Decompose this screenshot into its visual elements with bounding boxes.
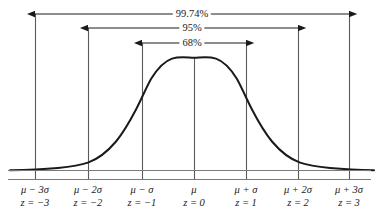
interval-label-9974: 99.74% <box>173 8 211 19</box>
tick-label-minus-3sigma: μ − 3σ z = −3 <box>21 184 50 209</box>
tick-label-z-text: z = 3 <box>335 197 363 209</box>
tick-label-sigma-text: μ <box>183 184 205 196</box>
bell-curve <box>10 57 374 170</box>
interval-label-95: 95% <box>179 22 204 33</box>
tick-label-sigma-text: μ + σ <box>235 184 258 196</box>
tick-label-plus-2sigma: μ + 2σ z = 2 <box>284 184 312 209</box>
tick-label-z-text: z = 0 <box>183 197 205 209</box>
tick-label-z-text: z = −3 <box>21 197 50 209</box>
tick-label-sigma-text: μ − 3σ <box>21 184 50 196</box>
tick-label-minus-2sigma: μ − 2σ z = −2 <box>74 184 103 209</box>
tick-label-mu: μ z = 0 <box>183 184 205 209</box>
tick-label-minus-1sigma: μ − σ z = −1 <box>128 184 157 209</box>
tick-label-z-text: z = −2 <box>74 197 103 209</box>
interval-label-68: 68% <box>179 37 204 48</box>
tick-label-plus-3sigma: μ + 3σ z = 3 <box>335 184 363 209</box>
tick-label-sigma-text: μ − 2σ <box>74 184 103 196</box>
tick-label-sigma-text: μ − σ <box>128 184 157 196</box>
tick-label-sigma-text: μ + 3σ <box>335 184 363 196</box>
tick-label-z-text: z = 2 <box>284 197 312 209</box>
tick-label-z-text: z = 1 <box>235 197 258 209</box>
axis-ticks <box>36 171 350 180</box>
tick-label-z-text: z = −1 <box>128 197 157 209</box>
tick-label-plus-1sigma: μ + σ z = 1 <box>235 184 258 209</box>
normal-distribution-figure: 99.74% 95% 68% μ − 3σ z = −3 μ − 2σ z = … <box>0 0 379 223</box>
tick-label-sigma-text: μ + 2σ <box>284 184 312 196</box>
